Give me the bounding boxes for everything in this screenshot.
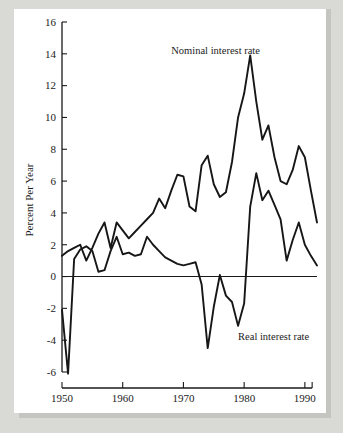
nominal-interest-rate-line	[62, 55, 317, 260]
x-tick-label: 1990	[294, 392, 317, 404]
y-tick-label: -6	[47, 366, 57, 378]
x-axis-ticks	[62, 382, 312, 388]
y-tick-label: 14	[45, 48, 57, 60]
series-annotations: Nominal interest rateReal interest rate	[171, 45, 309, 342]
y-tick-label: 4	[51, 207, 57, 219]
nominal-series-label: Nominal interest rate	[171, 45, 260, 56]
y-tick-label: 12	[45, 79, 56, 91]
y-tick-label: 8	[51, 143, 57, 155]
x-tick-label: 1960	[112, 392, 135, 404]
y-tick-labels: -6-4-20246810121416	[45, 16, 57, 378]
y-tick-label: -4	[47, 334, 57, 346]
y-tick-label: 2	[51, 239, 57, 251]
figure-background: -6-4-20246810121416 19501960197019801990…	[0, 0, 343, 433]
y-axis-title: Percent Per Year	[23, 163, 35, 236]
y-tick-label: 0	[51, 270, 57, 282]
y-tick-label: 6	[51, 175, 57, 187]
y-tick-label: 16	[45, 16, 57, 28]
data-series-lines	[62, 55, 317, 373]
interest-rate-line-chart: -6-4-20246810121416 19501960197019801990…	[0, 0, 343, 433]
x-tick-label: 1980	[233, 392, 256, 404]
x-tick-label: 1950	[51, 392, 74, 404]
x-tick-labels: 19501960197019801990	[51, 392, 316, 404]
real-series-label: Real interest rate	[238, 331, 309, 342]
y-tick-label: -2	[47, 302, 56, 314]
x-tick-label: 1970	[172, 392, 195, 404]
y-tick-label: 10	[45, 111, 57, 123]
